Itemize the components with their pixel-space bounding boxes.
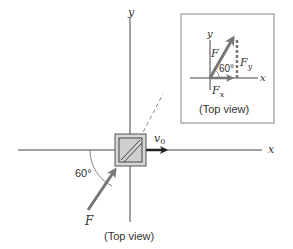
inset-force-label: F (210, 47, 219, 60)
inset-y-axis-label: y (206, 28, 213, 39)
main-caption: (Top view) (104, 230, 154, 242)
main-y-axis-label: y (127, 6, 135, 19)
inset-angle-label: 60° (219, 63, 234, 74)
inset-x-axis-label: x (260, 72, 266, 83)
inset-panel: y x F 60° Fy Fx (Top view) (181, 14, 274, 123)
velocity-label: v0 (154, 132, 165, 146)
block (115, 134, 146, 166)
main-x-axis-label: x (268, 143, 275, 156)
main-angle-label: 60° (75, 167, 92, 179)
force-arrow (88, 170, 115, 210)
inset-caption: (Top view) (199, 103, 249, 115)
main-force-label: F (84, 214, 94, 228)
diagram-canvas: y x 60° F v0 (Top view) y x F 60° (0, 0, 293, 249)
